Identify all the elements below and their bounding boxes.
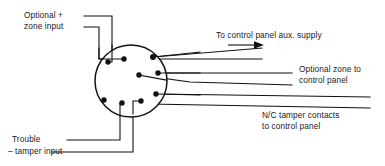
aux-supply-arrow [228,41,264,49]
pin-8 [119,100,124,105]
label-nc-tamper-contacts: N/C tamper contacts [262,110,340,121]
pin-5 [155,70,160,75]
wiring-diagram: Optional + zone input Trouble – tamper i… [0,0,385,166]
label-zone-input-line2: zone input [24,21,63,32]
connector-body-circle [95,45,167,117]
pin-3 [150,54,156,60]
wire-nc-tamper-2 [149,104,370,108]
label-nc-tamper-to-control-panel: to control panel [262,121,320,132]
pin-1 [105,59,110,64]
label-tamper-input: – tamper input [8,146,62,157]
label-optional-zone-control-panel: control panel [299,75,348,86]
pin-4 [136,72,141,77]
label-optional-zone: Optional zone to [299,64,361,75]
pin-7 [101,97,106,102]
wire-stub-right-a [153,52,200,57]
label-trouble: Trouble [12,134,41,145]
pin-9 [138,98,143,103]
label-aux-supply: To control panel aux. supply [216,30,322,41]
pin-2 [121,56,126,61]
pin-6 [153,91,158,96]
label-optional-plus-zone-input: Optional + [24,10,63,21]
